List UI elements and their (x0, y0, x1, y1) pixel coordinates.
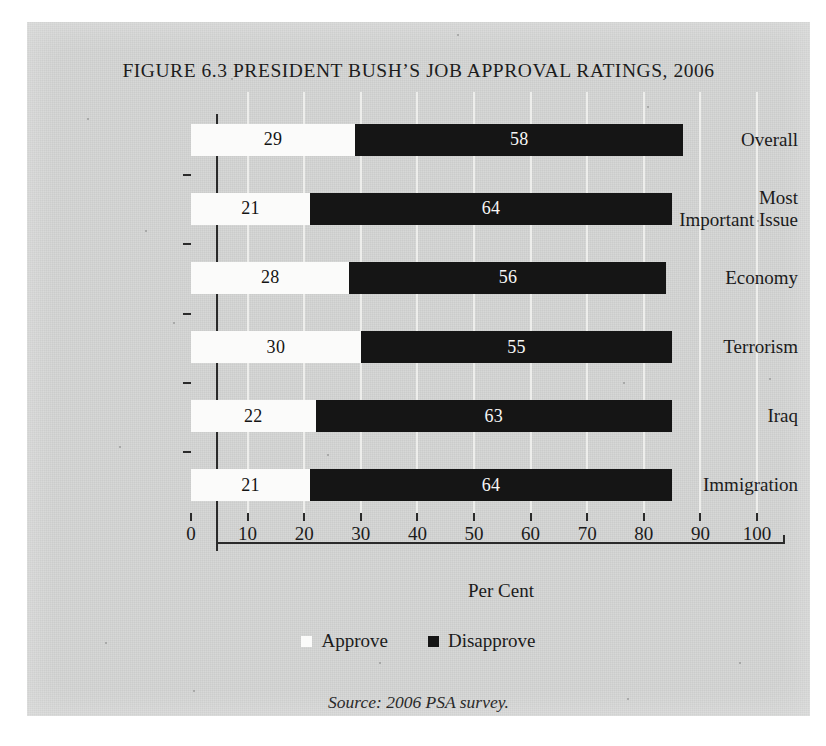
x-axis-tick (699, 513, 701, 521)
bar-segment-disapprove: 56 (349, 262, 666, 294)
scan-speckle (379, 662, 381, 664)
bar-row: 3055 (27, 331, 810, 363)
x-axis-title: Per Cent (218, 580, 784, 602)
x-axis-tick (416, 513, 418, 521)
x-axis-tick (530, 513, 532, 521)
bar-segment-approve: 29 (191, 124, 355, 156)
scan-speckle (739, 662, 741, 664)
bar-value-label: 56 (499, 267, 518, 288)
legend-swatch-approve-icon (301, 636, 312, 647)
gridline-vertical (643, 92, 645, 520)
bar-segment-approve: 21 (191, 193, 310, 225)
gridline-vertical (699, 92, 701, 520)
gridline-vertical (473, 92, 475, 520)
y-axis-tick (183, 243, 191, 245)
bar-segment-approve: 28 (191, 262, 349, 294)
bar-value-label: 64 (482, 198, 501, 219)
scan-speckle (627, 698, 629, 700)
y-axis-tick (183, 451, 191, 453)
x-axis-tick (247, 513, 249, 521)
bar-segment-disapprove: 63 (316, 400, 673, 432)
bar-segment-disapprove: 55 (361, 331, 672, 363)
scan-speckle (623, 382, 625, 384)
chart-legend: Approve Disapprove (27, 630, 810, 652)
x-axis-tick (360, 513, 362, 521)
x-axis-tick-label: 20 (295, 523, 314, 545)
legend-item-approve: Approve (301, 630, 387, 652)
x-axis-tick-label: 100 (743, 523, 772, 545)
bar-value-label: 21 (241, 475, 260, 496)
x-axis-tick (586, 513, 588, 521)
x-axis-tick (303, 513, 305, 521)
x-axis-end-cap (783, 535, 785, 543)
bar-value-label: 58 (510, 129, 529, 150)
y-axis-tick (183, 174, 191, 176)
scan-speckle (87, 118, 89, 120)
legend-label-approve: Approve (321, 630, 387, 652)
bar-row: 2958 (27, 124, 810, 156)
x-axis-tick-label: 40 (408, 523, 427, 545)
y-axis-tick (183, 313, 191, 315)
bar-value-label: 28 (261, 267, 280, 288)
bar-value-label: 21 (241, 198, 260, 219)
bar-value-label: 30 (267, 337, 286, 358)
x-axis-tick (756, 513, 758, 521)
x-axis-tick-label: 50 (465, 523, 484, 545)
source-note: Source: 2006 PSA survey. (27, 692, 810, 713)
x-axis-tick (190, 513, 192, 521)
gridline-vertical (756, 92, 758, 520)
bar-row: 2856 (27, 262, 810, 294)
scan-speckle (769, 378, 771, 380)
bar-row: 2263 (27, 400, 810, 432)
bar-row: 2164 (27, 469, 810, 501)
scan-speckle (145, 230, 147, 232)
bar-value-label: 29 (264, 129, 283, 150)
x-axis-tick-label: 80 (634, 523, 653, 545)
gridline-vertical (247, 92, 249, 520)
figure-title: FIGURE 6.3 PRESIDENT BUSH’S JOB APPROVAL… (27, 60, 810, 82)
x-axis-tick (643, 513, 645, 521)
scan-speckle (757, 220, 759, 222)
y-axis-tick (183, 382, 191, 384)
bar-segment-disapprove: 58 (355, 124, 683, 156)
gridline-vertical (586, 92, 588, 520)
scan-speckle (173, 322, 175, 324)
scan-speckle (457, 34, 459, 36)
bar-value-label: 22 (244, 406, 263, 427)
scan-speckle (105, 642, 107, 644)
x-axis-tick (473, 513, 475, 521)
gridline-vertical (530, 92, 532, 520)
legend-swatch-disapprove-icon (428, 636, 439, 647)
x-axis-tick-label: 10 (238, 523, 257, 545)
bar-segment-disapprove: 64 (310, 193, 672, 225)
bar-value-label: 63 (485, 406, 504, 427)
gridline-vertical (416, 92, 418, 520)
legend-label-disapprove: Disapprove (448, 630, 536, 652)
x-axis-tick-label: 90 (691, 523, 710, 545)
scan-speckle (231, 78, 233, 80)
gridline-vertical (303, 92, 305, 520)
bar-segment-approve: 30 (191, 331, 361, 363)
bar-segment-approve: 21 (191, 469, 310, 501)
bar-value-label: 64 (482, 475, 501, 496)
x-axis-tick-label: 0 (186, 523, 196, 545)
bar-value-label: 55 (507, 337, 526, 358)
figure-panel: FIGURE 6.3 PRESIDENT BUSH’S JOB APPROVAL… (27, 22, 810, 716)
bar-segment-approve: 22 (191, 400, 316, 432)
figure-container: FIGURE 6.3 PRESIDENT BUSH’S JOB APPROVAL… (0, 0, 826, 746)
x-axis-tick-label: 30 (351, 523, 370, 545)
scan-speckle (647, 106, 649, 108)
x-axis-tick-label: 60 (521, 523, 540, 545)
bar-row: 2164 (27, 193, 810, 225)
gridline-vertical (360, 92, 362, 520)
scan-speckle (119, 446, 121, 448)
bar-segment-disapprove: 64 (310, 469, 672, 501)
x-axis-tick-label: 70 (578, 523, 597, 545)
scan-speckle (193, 690, 195, 692)
scan-speckle (327, 454, 329, 456)
legend-item-disapprove: Disapprove (428, 630, 536, 652)
